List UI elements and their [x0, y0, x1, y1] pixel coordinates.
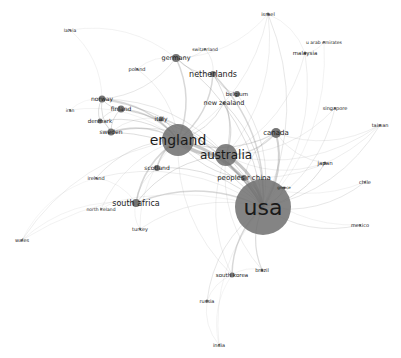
- node-label-belgium: belgium: [226, 91, 248, 98]
- node-label-russia: russia: [200, 298, 215, 304]
- edge-norway-latvia: [70, 30, 102, 99]
- edge-australia-netherlands: [213, 74, 230, 155]
- node-label-finland: finland: [111, 105, 132, 112]
- node-label-poland: poland: [128, 66, 145, 73]
- node-label-chile: chile: [359, 179, 371, 185]
- node-label-malaysia: malaysia: [293, 50, 318, 57]
- node-label-singapore: singapore: [323, 105, 348, 112]
- edge-canada-taiwan: [276, 125, 380, 141]
- node-label-australia: australia: [200, 148, 252, 162]
- node-label-new-zealand: new zealand: [204, 99, 245, 107]
- edge-england-wales: [22, 140, 178, 240]
- node-label-sweden: sweden: [99, 128, 122, 135]
- edge-south-korea-india: [216, 275, 232, 345]
- edge-malaysia-israel: [268, 14, 305, 53]
- node-label-italy: italy: [155, 115, 168, 123]
- node-label-mexico: mexico: [351, 222, 369, 228]
- node-label-wales: wales: [15, 237, 30, 243]
- node-label-latvia: latvia: [64, 28, 77, 33]
- node-label-u-arab-emirates: u arab emirates: [306, 40, 342, 45]
- edge-germany-latvia: [70, 28, 176, 58]
- node-label-iran: iran: [66, 108, 75, 113]
- edge-australia-south-korea: [216, 155, 232, 275]
- nodes-layer: [21, 13, 381, 347]
- node-label-usa: usa: [244, 195, 283, 220]
- node-label-north-ireland: north ireland: [87, 207, 116, 212]
- network-graph: usaenglandaustraliacanadapeoples r china…: [0, 0, 401, 358]
- node-label-israel: israel: [261, 11, 275, 17]
- edge-germany-israel: [176, 14, 268, 58]
- edge-canada-japan: [276, 133, 325, 163]
- node-label-england: england: [150, 132, 207, 148]
- node-label-norway: norway: [91, 95, 114, 103]
- node-label-taiwan: taiwan: [372, 122, 389, 128]
- node-label-denmark: denmark: [88, 118, 113, 124]
- node-label-japan: japan: [316, 160, 333, 167]
- node-label-turkey: turkey: [132, 226, 148, 233]
- node-label-south-africa: south africa: [112, 199, 160, 208]
- edge-norway-germany: [102, 58, 176, 99]
- edges-layer: [22, 14, 380, 345]
- node-label-brazil: brazil: [255, 267, 269, 273]
- edge-russia-india: [206, 301, 219, 345]
- node-label-germany: germany: [162, 54, 191, 62]
- labels-layer: usaenglandaustraliacanadapeoples r china…: [15, 11, 388, 348]
- node-label-south-korea: south korea: [216, 272, 248, 278]
- node-label-canada: canada: [263, 129, 289, 137]
- node-label-netherlands: netherlands: [189, 70, 237, 79]
- node-label-ireland: ireland: [87, 175, 104, 181]
- node-label-greece: greece: [277, 185, 291, 190]
- node-label-peoples-r-china: peoples r china: [217, 174, 271, 182]
- network-canvas: usaenglandaustraliacanadapeoples r china…: [0, 0, 401, 358]
- node-label-switzerland: switzerland: [192, 47, 218, 52]
- node-label-scotland: scotland: [144, 164, 170, 171]
- edge-south-africa-wales: [22, 202, 136, 240]
- node-label-india: india: [213, 342, 225, 348]
